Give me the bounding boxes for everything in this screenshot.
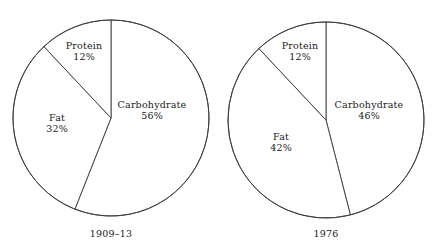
left-slice-name-carbohydrate: Carbohydrate [92,99,212,110]
left-slice-label-fat: Fat 32% [0,112,117,134]
right-slice-percent-carbohydrate: 46% [309,110,429,121]
right-chart-caption: 1976 [256,228,396,239]
left-slice-label-protein: Protein 12% [24,40,144,62]
pie-chart-figure: Carbohydrate 56% Fat 32% Protein 12% 190… [0,0,436,251]
right-slice-name-fat: Fat [221,131,341,142]
right-slice-name-protein: Protein [240,40,360,51]
right-slice-percent-fat: 42% [221,142,341,153]
left-slice-percent-fat: 32% [0,123,117,134]
left-slice-percent-protein: 12% [24,51,144,62]
left-slice-name-fat: Fat [0,112,117,123]
right-slice-label-carbohydrate: Carbohydrate 46% [309,99,429,121]
left-slice-name-protein: Protein [24,40,144,51]
left-chart-caption: 1909–13 [41,228,181,239]
right-slice-percent-protein: 12% [240,51,360,62]
right-slice-name-carbohydrate: Carbohydrate [309,99,429,110]
right-slice-label-protein: Protein 12% [240,40,360,62]
right-slice-label-fat: Fat 42% [221,131,341,153]
